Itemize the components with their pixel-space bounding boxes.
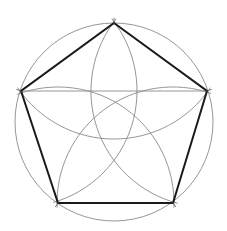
construction-arc	[57, 87, 211, 208]
construction-arc	[18, 88, 211, 139]
circumscribed-circle	[15, 23, 213, 221]
pentagon-diagram	[0, 0, 227, 231]
pentagon	[21, 23, 207, 203]
vertex-ticks	[16, 18, 211, 207]
construction-arc	[17, 87, 174, 208]
construction-arc	[53, 19, 137, 203]
construction-arcs	[17, 19, 211, 208]
construction-arc	[91, 19, 178, 204]
